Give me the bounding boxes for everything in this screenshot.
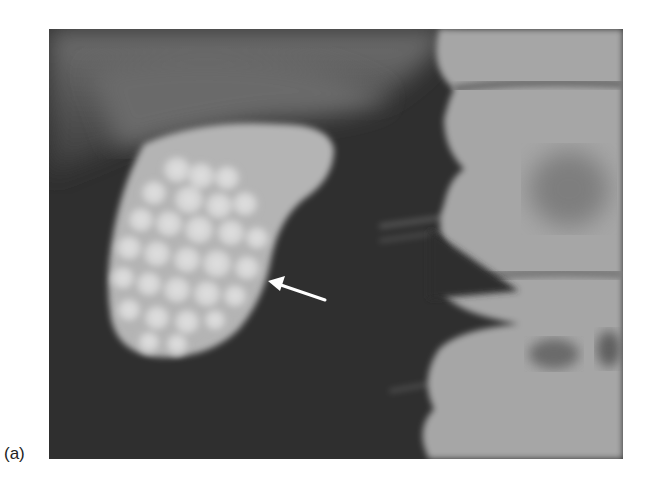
lumbar-spine xyxy=(423,29,623,459)
radiograph-image xyxy=(49,29,623,459)
panel-label: (a) xyxy=(4,444,25,464)
